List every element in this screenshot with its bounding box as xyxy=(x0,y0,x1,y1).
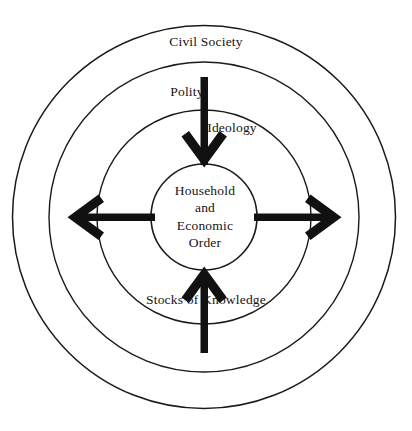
diagram-canvas: Civil Society Polity Ideology Stocks of … xyxy=(0,0,412,431)
arrow-up-bottom-icon xyxy=(182,267,227,354)
center-label-line-3: Economic xyxy=(175,217,235,234)
label-polity: Polity xyxy=(170,85,203,99)
label-civil-society: Civil Society xyxy=(169,35,242,49)
label-ideology: Ideology xyxy=(207,121,257,135)
center-label-line-2: and xyxy=(175,200,235,217)
arrow-right-icon xyxy=(254,195,342,240)
center-label-line-4: Order xyxy=(175,234,235,251)
label-household-economic-order: Household and Economic Order xyxy=(175,182,235,251)
center-label-line-1: Household xyxy=(175,182,235,199)
arrow-left-icon xyxy=(68,195,156,240)
label-stocks-of-knowledge: Stocks of Knowledge xyxy=(146,293,266,307)
